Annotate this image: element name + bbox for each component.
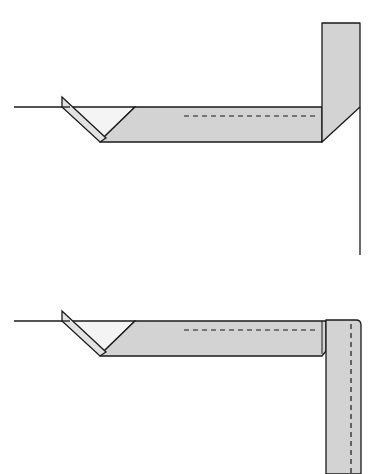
horizontal-colored-strip xyxy=(100,107,322,142)
vertical-folded-strip xyxy=(326,320,361,474)
diagram-a-svg xyxy=(0,0,373,260)
diagram-b-svg xyxy=(0,290,373,474)
vertical-standing-strip xyxy=(322,23,360,142)
folding-diagram-step-a xyxy=(0,0,373,260)
folding-diagram-step-b xyxy=(0,290,373,474)
horizontal-colored-strip xyxy=(100,321,326,356)
